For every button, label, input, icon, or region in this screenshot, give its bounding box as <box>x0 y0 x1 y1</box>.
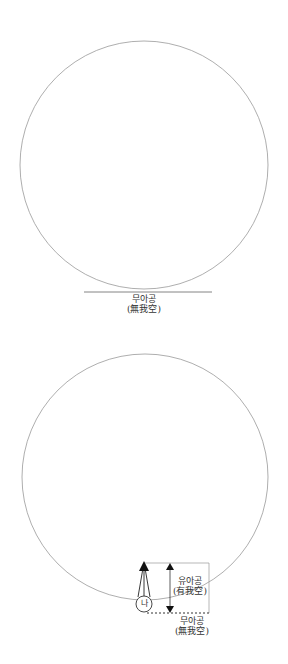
lower-label-korean: 무아공 <box>174 616 210 626</box>
self-arrow-head-icon <box>139 561 149 571</box>
top-label-hanja: (無我空) <box>120 304 168 314</box>
large-circle-top <box>20 41 268 289</box>
upper-label-hanja: (有我空) <box>170 586 210 596</box>
top-label-korean: 무아공 <box>124 294 164 304</box>
self-arrow-left <box>138 568 143 597</box>
lower-label-hanja: (無我空) <box>172 626 212 636</box>
diagram-canvas <box>0 0 288 664</box>
self-label: 나 <box>136 599 152 609</box>
upper-label-korean: 유아공 <box>172 576 208 586</box>
measure-arrow-up-icon <box>166 563 174 570</box>
self-arrow-right <box>145 568 150 597</box>
measure-arrow-down-icon <box>166 606 174 613</box>
